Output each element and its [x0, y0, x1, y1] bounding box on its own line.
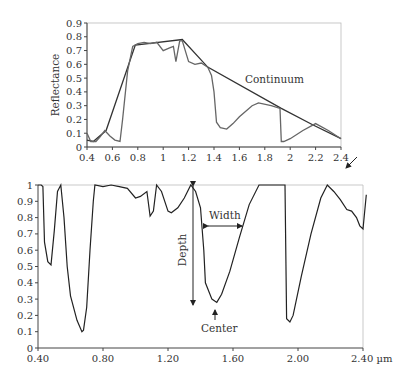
y-tick-label: 0.5	[17, 261, 33, 272]
top-y-ticks: 00.10.20.30.40.50.60.70.80.9	[66, 18, 87, 153]
x-tick-label: 1.60	[222, 353, 244, 364]
y-tick-label: 0.8	[17, 212, 33, 223]
x-tick-label: 2.2	[308, 152, 324, 163]
bottom-y-ticks: 00.10.20.30.40.50.60.70.80.91	[17, 180, 38, 354]
y-tick-label: 0.2	[17, 310, 33, 321]
x-tick-label: 2	[287, 152, 293, 163]
x-tick-label: 2.40 µm	[351, 353, 393, 364]
depth-label: Depth	[176, 234, 188, 267]
top-y-axis-label: Reflectance	[49, 54, 61, 117]
width-label: Width	[209, 209, 241, 221]
x-tick-label: 1.2	[181, 152, 197, 163]
figure: 00.10.20.30.40.50.60.70.80.9 0.40.60.811…	[0, 0, 403, 381]
top-x-ticks: 0.40.60.811.21.41.61.822.22.4	[79, 147, 349, 163]
y-tick-label: 0	[27, 343, 33, 354]
x-tick-label: 1.20	[157, 353, 179, 364]
x-tick-label: 0.4	[79, 152, 95, 163]
x-tick-label: 2.00	[287, 353, 309, 364]
y-tick-label: 0.4	[66, 86, 82, 97]
y-tick-label: 0	[76, 142, 82, 153]
y-tick-label: 0.3	[17, 294, 33, 305]
y-tick-label: 1	[27, 180, 33, 191]
top-chart: 00.10.20.30.40.50.60.70.80.9 0.40.60.811…	[49, 18, 349, 164]
x-tick-label: 1	[160, 152, 166, 163]
continuum-removed-line	[38, 185, 366, 332]
y-tick-label: 0.7	[17, 228, 33, 239]
x-tick-label: 0.8	[130, 152, 146, 163]
reflectance-line	[87, 41, 341, 142]
y-tick-label: 0.8	[66, 31, 82, 42]
x-tick-label: 0.80	[92, 353, 114, 364]
y-tick-label: 0.1	[17, 326, 33, 337]
y-tick-label: 0.7	[66, 45, 82, 56]
y-tick-label: 0.5	[66, 73, 82, 84]
bottom-chart: 00.10.20.30.40.50.60.70.80.91 0.400.801.…	[17, 180, 393, 365]
y-tick-label: 0.9	[66, 18, 82, 29]
y-tick-label: 0.6	[17, 245, 33, 256]
y-tick-label: 0.6	[66, 59, 82, 70]
x-tick-label: 0.40	[27, 353, 49, 364]
x-tick-label: 1.4	[206, 152, 222, 163]
continuum-label: Continuum	[245, 73, 304, 85]
y-tick-label: 0.3	[66, 100, 82, 111]
bottom-x-ticks: 0.400.801.201.602.002.40 µm	[27, 348, 393, 364]
y-tick-label: 0.9	[17, 196, 33, 207]
x-tick-label: 2.4	[333, 152, 349, 163]
top-plot-frame	[87, 23, 341, 147]
y-tick-label: 0.1	[66, 128, 82, 139]
x-tick-label: 1.8	[257, 152, 273, 163]
y-tick-label: 0.2	[66, 114, 82, 125]
center-label: Center	[201, 322, 238, 334]
x-tick-label: 0.6	[104, 152, 120, 163]
x-tick-label: 1.6	[231, 152, 247, 163]
y-tick-label: 0.4	[17, 277, 33, 288]
